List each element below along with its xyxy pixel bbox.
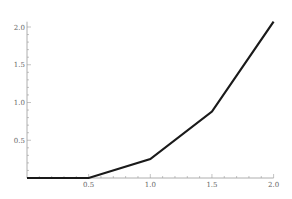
minor-ticks [27, 27, 274, 178]
y-tick-label: 2.0 [14, 24, 25, 32]
line-chart: 0.51.01.52.0 0.51.01.52.0 [0, 0, 292, 199]
x-tick-labels: 0.51.01.52.0 [83, 181, 279, 189]
x-tick-label: 2.0 [268, 181, 279, 189]
y-tick-label: 1.0 [14, 99, 25, 107]
data-series-line [27, 22, 274, 178]
x-tick-label: 1.5 [206, 181, 217, 189]
x-tick-label: 0.5 [83, 181, 94, 189]
x-tick-label: 1.0 [145, 181, 156, 189]
y-tick-labels: 0.51.01.52.0 [14, 24, 25, 145]
y-tick-label: 0.5 [14, 137, 25, 145]
y-tick-label: 1.5 [14, 61, 25, 69]
